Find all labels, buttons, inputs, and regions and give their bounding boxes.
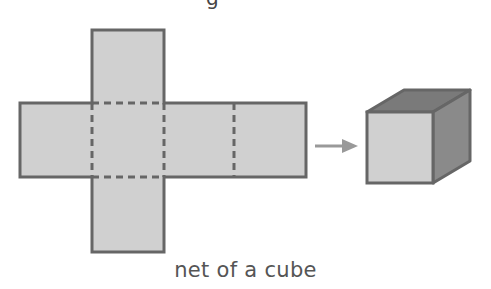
cube-front-face — [367, 112, 433, 183]
diagram-canvas — [0, 0, 491, 289]
cube — [367, 90, 470, 183]
caption: net of a cube — [0, 258, 491, 282]
cube-net — [20, 30, 306, 252]
caption-text: net of a cube — [174, 258, 317, 282]
arrow-icon — [315, 139, 358, 153]
cube-net-diagram: g net of a cube — [0, 0, 491, 289]
